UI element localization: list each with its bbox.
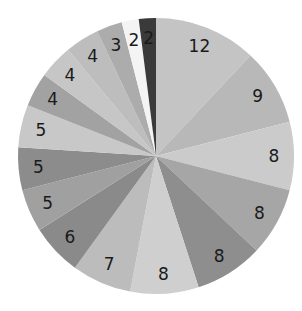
slice-value-label: 8	[254, 203, 265, 223]
slice-value-label: 12	[189, 36, 211, 56]
slice-value-label: 5	[33, 157, 44, 177]
slice-value-label: 5	[35, 120, 46, 140]
slice-value-label: 3	[111, 35, 122, 55]
slice-value-label: 4	[87, 46, 98, 66]
slice-value-label: 8	[269, 146, 280, 166]
slice-value-label: 4	[65, 65, 76, 85]
slice-value-label: 6	[65, 227, 76, 247]
pie-slices	[18, 18, 294, 294]
slice-value-label: 7	[104, 254, 115, 274]
slice-value-label: 9	[252, 86, 263, 106]
slice-value-label: 2	[143, 28, 154, 48]
slice-value-label: 8	[158, 264, 169, 284]
slice-value-label: 4	[47, 89, 58, 109]
slice-value-label: 8	[214, 246, 225, 266]
slice-value-label: 5	[42, 193, 53, 213]
slice-value-label: 2	[128, 30, 139, 50]
pie-chart: 129888876555444322	[0, 0, 302, 311]
